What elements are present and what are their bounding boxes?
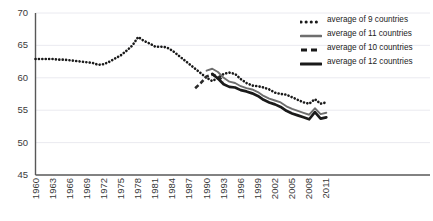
legend-swatch-icon <box>300 28 322 40</box>
x-axis-tick-label: 1978 <box>133 178 143 199</box>
y-axis-tick-label: 65 <box>2 40 28 50</box>
x-axis-tick-label: 2005 <box>287 178 297 199</box>
series-line <box>207 69 327 115</box>
legend-item-label: average of 10 countries <box>327 43 413 52</box>
legend-item-label: average of 9 countries <box>327 15 408 24</box>
legend-item[interactable]: average of 11 countries <box>300 27 432 40</box>
x-axis-tick-label: 1996 <box>236 178 246 199</box>
chart-legend: average of 9 countriesaverage of 11 coun… <box>300 13 432 69</box>
x-axis-tick-label: 1999 <box>253 178 263 199</box>
legend-swatch-icon <box>300 56 322 68</box>
x-axis-tick-label: 1993 <box>219 178 229 199</box>
x-axis-tick-label: 1969 <box>82 178 92 199</box>
x-axis-tick-label: 1972 <box>99 178 109 199</box>
legend-swatch-icon <box>300 14 322 26</box>
x-axis-tick-label: 2011 <box>321 178 331 198</box>
y-axis-tick-label: 45 <box>2 170 28 180</box>
x-axis-tick-label: 1984 <box>167 178 177 199</box>
legend-item-label: average of 11 countries <box>327 29 412 38</box>
x-axis-tick-label: 2008 <box>304 178 314 199</box>
legend-item-label: average of 12 countries <box>327 57 413 66</box>
y-axis-tick-label: 50 <box>2 138 28 148</box>
x-axis-tick-label: 2002 <box>270 178 280 199</box>
x-axis-tick-label: 1975 <box>116 178 126 199</box>
x-axis-tick-label: 1963 <box>48 178 58 199</box>
legend-item[interactable]: average of 12 countries <box>300 55 432 68</box>
y-axis-tick-label: 55 <box>2 105 28 115</box>
legend-swatch-icon <box>300 42 322 54</box>
y-axis-tick-label: 70 <box>2 8 28 18</box>
series-line <box>36 37 327 104</box>
x-axis-tick-label: 1960 <box>31 178 41 199</box>
legend-item[interactable]: average of 10 countries <box>300 41 432 54</box>
x-axis-tick-label: 1990 <box>202 178 212 199</box>
chart-container: 706560555045 196019631966196919721975197… <box>0 0 433 221</box>
x-axis-tick-label: 1981 <box>150 178 160 199</box>
x-axis-tick-label: 1966 <box>65 178 75 199</box>
x-axis-tick-label: 1987 <box>184 178 194 199</box>
legend-item[interactable]: average of 9 countries <box>300 13 432 26</box>
y-axis-tick-label: 60 <box>2 73 28 83</box>
